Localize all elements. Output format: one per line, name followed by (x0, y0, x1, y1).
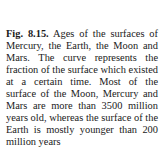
figure-label: Fig. 8.15. (6, 28, 49, 39)
caption-text: Ages of the surfaces of Mercury, the Ear… (6, 28, 158, 147)
figure-caption: Fig. 8.15. Ages of the surfaces of Mercu… (6, 28, 158, 148)
